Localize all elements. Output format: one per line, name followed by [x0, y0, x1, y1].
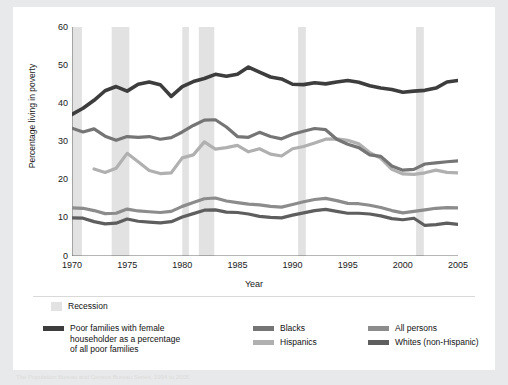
- chart-line-series: [72, 198, 458, 214]
- legend-label-poor-families: Poor families with female householder as…: [70, 323, 180, 355]
- x-tick-label: 2000: [383, 260, 423, 270]
- legend-swatch-poor-families: [43, 326, 64, 331]
- legend-swatch-hispanics: [253, 340, 274, 345]
- chart-legend: Recession Poor families with female hous…: [13, 301, 495, 363]
- recession-band: [72, 27, 82, 256]
- legend-item-blacks: Blacks: [253, 323, 305, 334]
- chart-svg: [72, 27, 458, 256]
- legend-item-all-persons: All persons: [368, 323, 437, 334]
- screenshot-root: 6050403020100 19701975198019851990199520…: [0, 0, 508, 385]
- legend-label-recession: Recession: [68, 301, 108, 312]
- source-footnote: The Population Bureau and Census Bureau …: [16, 374, 508, 384]
- legend-item-hispanics: Hispanics: [253, 337, 317, 348]
- x-tick-label: 1985: [217, 260, 257, 270]
- recession-band: [182, 27, 189, 256]
- legend-label-hispanics: Hispanics: [280, 337, 317, 348]
- legend-swatch-blacks: [253, 326, 274, 331]
- y-tick-label: 40: [58, 99, 68, 108]
- x-tick-label: 1990: [273, 260, 313, 270]
- chart-line-series: [72, 120, 458, 170]
- y-tick-label: 50: [58, 61, 68, 70]
- figure-card: 6050403020100 19701975198019851990199520…: [13, 7, 495, 370]
- x-tick-label: 1975: [107, 260, 147, 270]
- y-tick-label: 10: [58, 213, 68, 222]
- chart-line-series: [72, 67, 458, 114]
- axis-lines: [72, 27, 458, 256]
- chart-plot-area: [72, 27, 458, 256]
- y-axis-title: Percentage living in poverty: [27, 21, 37, 211]
- legend-item-poor-families: Poor families with female householder as…: [43, 323, 243, 355]
- legend-swatch-all-persons: [368, 326, 389, 331]
- legend-label-whites: Whites (non-Hispanic): [395, 337, 479, 348]
- y-tick-label: 20: [58, 175, 68, 184]
- legend-item-recession: Recession: [51, 301, 108, 312]
- y-tick-label: 60: [58, 23, 68, 32]
- recession-band: [298, 27, 306, 256]
- legend-label-all-persons: All persons: [395, 323, 437, 334]
- legend-swatch-whites: [368, 340, 389, 345]
- legend-divider: [33, 296, 475, 297]
- x-tick-label: 1995: [328, 260, 368, 270]
- y-tick-label: 30: [58, 137, 68, 146]
- y-axis-tick-labels: 6050403020100: [43, 7, 68, 247]
- x-axis-title: Year: [13, 279, 495, 289]
- x-tick-label: 1970: [52, 260, 92, 270]
- legend-swatch-recession: [51, 302, 62, 311]
- legend-item-whites: Whites (non-Hispanic): [368, 337, 479, 348]
- x-tick-label: 1980: [162, 260, 202, 270]
- legend-label-blacks: Blacks: [280, 323, 305, 334]
- x-tick-label: 2005: [438, 260, 478, 270]
